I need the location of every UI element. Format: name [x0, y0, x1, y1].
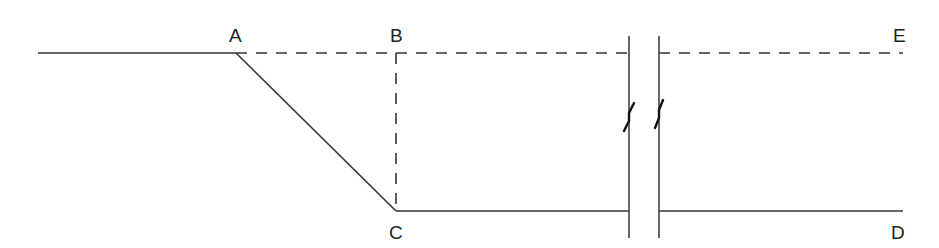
label-c: C: [389, 222, 403, 243]
label-a: A: [229, 25, 242, 46]
label-b: B: [390, 25, 403, 46]
slope-line-a-c: [236, 53, 396, 211]
diagram-canvas: A B C D E: [0, 0, 939, 248]
label-e: E: [893, 25, 906, 46]
label-d: D: [891, 222, 905, 243]
